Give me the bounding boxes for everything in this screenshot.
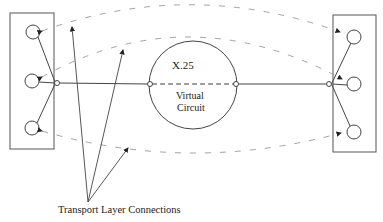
left-link	[60, 83, 148, 84]
transport-layer-connections-label: Transport Layer Connections	[58, 204, 181, 215]
left-endpoint-2	[25, 74, 39, 88]
transport-arc-3	[42, 131, 341, 153]
network-port-right	[234, 82, 239, 87]
left-endpoint-1	[26, 25, 40, 39]
virtual-circuit-label-line2: Circuit	[177, 102, 205, 113]
left-endpoints	[25, 25, 40, 135]
virtual-circuit-label-line1: Virtual	[176, 90, 204, 101]
network-label: X.25	[172, 59, 194, 71]
right-junction	[327, 82, 332, 87]
annotation-arrow-2	[88, 50, 123, 202]
left-endpoint-3	[25, 121, 39, 135]
annotation-arrows	[72, 27, 128, 202]
right-endpoint-2	[347, 77, 361, 91]
annotation-arrow-1	[72, 27, 88, 202]
x25-network-circle	[149, 41, 237, 129]
left-junction	[55, 81, 60, 86]
right-endpoint-3	[347, 125, 361, 139]
network-port-left	[148, 82, 153, 87]
transport-arc-1	[42, 5, 340, 32]
left-fanout-lines	[37, 37, 55, 123]
right-endpoint-1	[347, 30, 361, 44]
